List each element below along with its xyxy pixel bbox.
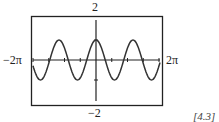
- figure-reference: [4.3]: [193, 110, 215, 122]
- y-min-label: −2: [88, 107, 101, 119]
- y-max-label: 2: [92, 1, 98, 13]
- x-max-label: 2π: [166, 54, 178, 66]
- x-min-label: −2π: [3, 54, 22, 66]
- graph-window: [0, 0, 219, 122]
